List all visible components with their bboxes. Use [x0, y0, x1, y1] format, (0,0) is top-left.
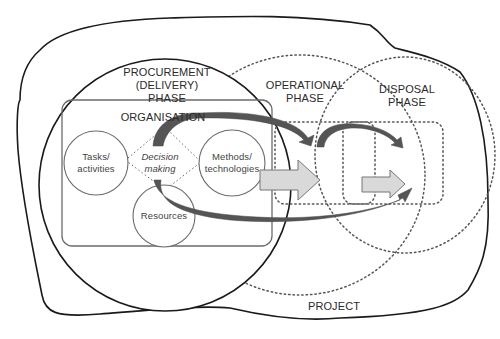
decision-line-2: making	[141, 163, 178, 175]
project-label: PROJECT	[308, 300, 360, 313]
tasks-line-2: activities	[77, 163, 114, 175]
transition-arrow-operational-disposal	[317, 124, 403, 148]
resources-label: Resources	[141, 210, 187, 222]
methods-line-2: technologies	[205, 163, 260, 175]
procurement-line-1: PROCUREMENT	[123, 66, 210, 79]
disposal-line-1: DISPOSAL	[379, 83, 435, 96]
organisation-label: ORGANISATION	[121, 111, 206, 124]
operational-phase-label: OPERATIONAL PHASE	[266, 79, 345, 105]
block-arrow-operational-disposal	[362, 170, 405, 198]
decision-line-1: Decision	[141, 151, 178, 163]
tasks-line-1: Tasks/	[77, 151, 114, 163]
decision-making-label: Decision making	[141, 151, 178, 175]
disposal-line-2: PHASE	[379, 96, 435, 109]
methods-label: Methods/ technologies	[205, 151, 260, 175]
procurement-line-3: PHASE	[123, 92, 210, 105]
operational-line-2: PHASE	[266, 92, 345, 105]
disposal-phase-label: DISPOSAL PHASE	[379, 83, 435, 109]
operational-line-1: OPERATIONAL	[266, 79, 345, 92]
methods-line-1: Methods/	[205, 151, 260, 163]
procurement-phase-label: PROCUREMENT (DELIVERY) PHASE	[123, 66, 210, 105]
procurement-line-2: (DELIVERY)	[123, 79, 210, 92]
tasks-label: Tasks/ activities	[77, 151, 114, 175]
